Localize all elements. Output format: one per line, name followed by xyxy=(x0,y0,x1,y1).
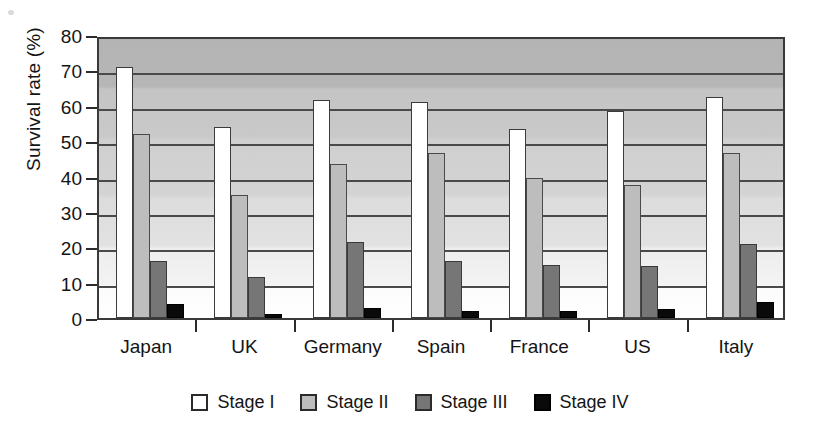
legend-item-stage-3[interactable]: Stage III xyxy=(415,392,508,413)
bar-group-japan xyxy=(116,39,184,318)
bar-group-italy xyxy=(706,39,774,318)
legend-label-stage-2: Stage II xyxy=(326,392,388,413)
x-tick-mark-4 xyxy=(490,320,492,332)
y-tick-mark-50 xyxy=(86,142,97,144)
bar-us-stage-2 xyxy=(624,185,641,318)
bar-uk-stage-1 xyxy=(214,127,231,318)
bar-germany-stage-3 xyxy=(347,242,364,318)
y-tick-mark-40 xyxy=(86,178,97,180)
bar-france-stage-2 xyxy=(526,178,543,318)
y-tick-mark-30 xyxy=(86,213,97,215)
x-tick-mark-6 xyxy=(687,320,689,332)
x-label-us: US xyxy=(588,336,686,358)
bar-japan-stage-4 xyxy=(167,304,184,318)
x-label-italy: Italy xyxy=(687,336,785,358)
legend-item-stage-1[interactable]: Stage I xyxy=(191,392,274,413)
bar-italy-stage-2 xyxy=(723,153,740,318)
bar-italy-stage-4 xyxy=(757,302,774,318)
bar-group-uk xyxy=(214,39,282,318)
bar-japan-stage-2 xyxy=(133,134,150,318)
legend-label-stage-4: Stage IV xyxy=(560,392,629,413)
bar-italy-stage-3 xyxy=(740,244,757,318)
x-tick-mark-3 xyxy=(392,320,394,332)
bar-japan-stage-1 xyxy=(116,67,133,318)
x-tick-mark-5 xyxy=(588,320,590,332)
x-label-germany: Germany xyxy=(294,336,392,358)
bar-germany-stage-1 xyxy=(313,100,330,318)
y-tick-label-20: 20 xyxy=(40,239,82,258)
x-label-uk: UK xyxy=(195,336,293,358)
legend-item-stage-2[interactable]: Stage II xyxy=(300,392,388,413)
bar-uk-stage-2 xyxy=(231,195,248,318)
bar-group-france xyxy=(509,39,577,318)
light-gray-square-icon xyxy=(300,394,317,411)
bar-chart-figure: Survival rate (%) 01020304050607080 Japa… xyxy=(0,0,820,447)
y-tick-label-40: 40 xyxy=(40,169,82,188)
bar-us-stage-4 xyxy=(658,309,675,318)
y-tick-label-80: 80 xyxy=(40,27,82,46)
bar-france-stage-3 xyxy=(543,265,560,318)
white-square-icon xyxy=(191,394,208,411)
x-tick-mark-2 xyxy=(294,320,296,332)
y-tick-mark-20 xyxy=(86,248,97,250)
x-label-spain: Spain xyxy=(392,336,490,358)
black-square-icon xyxy=(534,394,551,411)
y-tick-mark-10 xyxy=(86,284,97,286)
legend-item-stage-4[interactable]: Stage IV xyxy=(534,392,629,413)
bar-us-stage-1 xyxy=(607,111,624,318)
scan-artifact-speck xyxy=(8,10,14,15)
bar-japan-stage-3 xyxy=(150,261,167,318)
y-tick-label-10: 10 xyxy=(40,275,82,294)
y-tick-label-30: 30 xyxy=(40,204,82,223)
plot-area xyxy=(97,37,785,320)
y-tick-mark-70 xyxy=(86,71,97,73)
bar-italy-stage-1 xyxy=(706,97,723,318)
bar-france-stage-4 xyxy=(560,311,577,318)
y-tick-label-70: 70 xyxy=(40,62,82,81)
bar-uk-stage-4 xyxy=(265,314,282,318)
dark-gray-square-icon xyxy=(415,394,432,411)
x-tick-mark-1 xyxy=(195,320,197,332)
bar-germany-stage-2 xyxy=(330,164,347,318)
y-tick-mark-80 xyxy=(86,36,97,38)
y-tick-mark-60 xyxy=(86,107,97,109)
legend-label-stage-3: Stage III xyxy=(441,392,508,413)
y-tick-mark-0 xyxy=(86,319,97,321)
y-tick-label-0: 0 xyxy=(40,310,82,329)
chart-legend: Stage IStage IIStage IIIStage IV xyxy=(0,392,820,413)
x-label-japan: Japan xyxy=(97,336,195,358)
bar-group-us xyxy=(607,39,675,318)
y-tick-label-60: 60 xyxy=(40,98,82,117)
x-label-france: France xyxy=(490,336,588,358)
bar-spain-stage-2 xyxy=(428,153,445,318)
bar-group-spain xyxy=(411,39,479,318)
bar-uk-stage-3 xyxy=(248,277,265,318)
y-tick-label-50: 50 xyxy=(40,133,82,152)
bar-spain-stage-1 xyxy=(411,102,428,318)
bar-us-stage-3 xyxy=(641,266,658,318)
legend-label-stage-1: Stage I xyxy=(217,392,274,413)
bar-france-stage-1 xyxy=(509,129,526,318)
bar-group-germany xyxy=(313,39,381,318)
bar-spain-stage-4 xyxy=(462,311,479,318)
bar-spain-stage-3 xyxy=(445,261,462,318)
bar-germany-stage-4 xyxy=(364,308,381,318)
